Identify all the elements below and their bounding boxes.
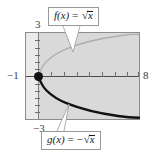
y-tick-2-5 bbox=[35, 40, 40, 41]
x-tick-1 bbox=[51, 72, 52, 77]
y-tick-neg-2-5 bbox=[35, 112, 40, 113]
figure-sqrt-functions: 3 −3 −1 8 f(x) = √x g(x) = −√x bbox=[0, 0, 158, 152]
y-tick-1 bbox=[35, 62, 40, 63]
x-tick-7 bbox=[127, 72, 128, 77]
x-tick-8 bbox=[138, 72, 139, 77]
y-tick-2 bbox=[35, 48, 40, 49]
x-tick-3 bbox=[77, 72, 78, 77]
y-tick-neg-1 bbox=[35, 91, 40, 92]
annotation-f-equals: = bbox=[72, 9, 78, 21]
annotation-g-of-x: g(x) = −√x bbox=[41, 131, 101, 150]
annotation-f-of-x: f(x) = √x bbox=[48, 7, 99, 26]
x-tick-2 bbox=[64, 72, 65, 77]
axis-label-x-max: 8 bbox=[143, 70, 149, 81]
axis-label-x-min: −1 bbox=[7, 70, 19, 81]
y-tick-neg-1-5 bbox=[35, 98, 40, 99]
y-tick-neg-0-5 bbox=[35, 84, 40, 85]
y-tick-0-5 bbox=[35, 69, 40, 70]
annotation-g-radical: √x bbox=[83, 134, 95, 146]
x-tick-6 bbox=[115, 72, 116, 77]
annotation-f-name: f(x) bbox=[54, 9, 69, 21]
x-tick-4 bbox=[89, 72, 90, 77]
annotation-f-radical: √x bbox=[81, 10, 93, 22]
x-tick-5 bbox=[102, 72, 103, 77]
axis-label-y-max: 3 bbox=[35, 19, 41, 30]
y-tick-1-5 bbox=[35, 55, 40, 56]
annotation-g-equals: = bbox=[67, 133, 73, 145]
origin-point-marker bbox=[34, 72, 43, 81]
y-tick-neg-2 bbox=[35, 105, 40, 106]
annotation-g-name: g(x) bbox=[47, 133, 65, 145]
